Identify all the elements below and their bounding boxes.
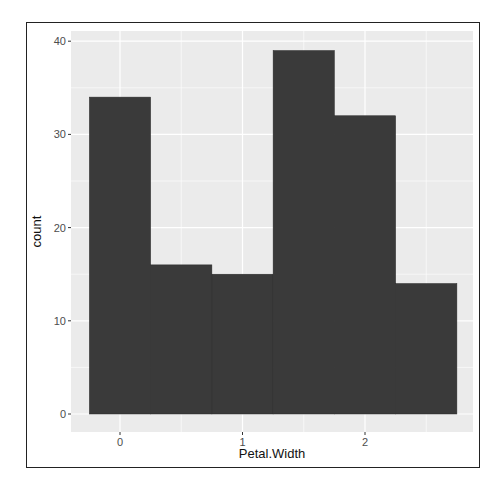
x-tick-label: 0 xyxy=(117,436,123,448)
y-tick-label: 20 xyxy=(54,222,66,234)
histogram-bar xyxy=(89,97,150,414)
y-axis-title: count xyxy=(29,215,44,247)
histogram-bar xyxy=(396,284,457,414)
chart-frame: 010203040 012 Petal.Width count xyxy=(26,22,480,468)
x-tick-label: 2 xyxy=(362,436,368,448)
histogram-chart: 010203040 012 Petal.Width count xyxy=(27,23,481,469)
histogram-bar xyxy=(212,274,273,414)
y-axis: 010203040 xyxy=(54,35,71,420)
y-tick-label: 0 xyxy=(60,408,66,420)
histogram-bar xyxy=(151,265,212,414)
y-tick-label: 40 xyxy=(54,35,66,47)
x-axis-title: Petal.Width xyxy=(239,446,305,461)
histogram-bar xyxy=(273,51,334,414)
y-tick-label: 30 xyxy=(54,128,66,140)
histogram-bar xyxy=(334,116,395,414)
y-tick-label: 10 xyxy=(54,315,66,327)
